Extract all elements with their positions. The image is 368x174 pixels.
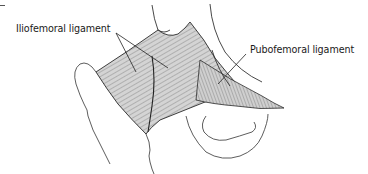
iliofemoral-ligament-label: Iliofemoral ligament — [16, 24, 110, 34]
ilium-outline — [152, 5, 170, 32]
pubis-lower-outline — [186, 114, 268, 158]
hip-ligament-illustration: Iliofemoral ligament Pubofemoral ligamen… — [0, 0, 368, 174]
obturator-outline — [202, 116, 255, 140]
pubofemoral-ligament-label: Pubofemoral ligament — [250, 45, 354, 55]
pubofemoral-ligament-shape — [196, 60, 284, 109]
femur-shaft-outline — [146, 134, 154, 174]
